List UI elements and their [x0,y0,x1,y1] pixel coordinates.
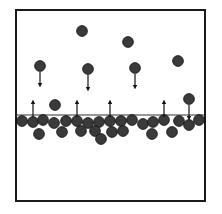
liquid-particle [127,115,138,126]
liquid-particles [17,115,205,145]
liquid-particle [107,127,118,138]
vapor-particle [83,64,94,75]
liquid-particle [61,116,72,127]
vapor-particle [77,26,88,37]
liquid-particle [57,127,68,138]
liquid-particle [49,118,60,129]
liquid-particle [148,117,159,128]
vapor-particle [50,100,61,111]
condensation-arrows [40,72,189,118]
liquid-particle [167,127,178,138]
liquid-particle [184,120,195,131]
liquid-particle [105,116,116,127]
liquid-particle [147,129,158,140]
vapor-particle [35,61,46,72]
vapor-particle [123,37,134,48]
liquid-particle [138,119,149,130]
liquid-particle [96,134,107,145]
liquid-particle [194,115,205,126]
liquid-particle [116,116,127,127]
diagram-canvas [0,0,222,214]
vapor-particle [130,63,141,74]
liquid-particle [34,129,45,140]
liquid-particle [118,126,129,137]
equilibrium-diagram [0,0,222,214]
liquid-particle [72,116,83,127]
vapor-particles [35,26,195,111]
vapor-particle [173,56,184,67]
liquid-particle [76,126,87,137]
liquid-particle [17,116,28,127]
liquid-particle [38,115,49,126]
liquid-particle [28,117,39,128]
liquid-particle [174,116,185,127]
vapor-particle [184,94,195,105]
